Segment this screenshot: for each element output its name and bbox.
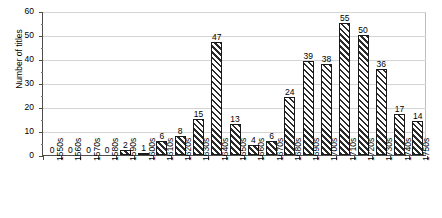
y-tick-minor-25 bbox=[41, 96, 43, 97]
y-tick-10 bbox=[39, 132, 43, 133]
bar-value-label-1640s: 47 bbox=[204, 32, 230, 42]
x-axis-label-1570s: 1570s bbox=[92, 138, 102, 161]
y-tick-minor-15 bbox=[41, 120, 43, 121]
bar-value-label-1710s: 55 bbox=[332, 13, 358, 23]
y-tick-minor-55 bbox=[41, 24, 43, 25]
bar-1710s bbox=[339, 23, 350, 155]
x-tick-1550s bbox=[43, 156, 44, 160]
bar-value-label-1750s: 14 bbox=[405, 111, 431, 121]
y-tick-label-10: 10 bbox=[0, 126, 34, 136]
y-tick-20 bbox=[39, 108, 43, 109]
bar-value-label-1700s: 38 bbox=[313, 54, 339, 64]
y-tick-label-0: 0 bbox=[0, 150, 34, 160]
x-axis-label-1640s: 1640s bbox=[220, 138, 230, 161]
x-axis-label-1650s: 1650s bbox=[238, 138, 248, 161]
y-tick-label-60: 60 bbox=[0, 6, 34, 16]
x-axis-label-1680s: 1680s bbox=[293, 138, 303, 161]
bar-value-label-1730s: 36 bbox=[368, 59, 394, 69]
y-tick-minor-45 bbox=[41, 48, 43, 49]
bar-value-label-1630s: 15 bbox=[185, 109, 211, 119]
y-tick-30 bbox=[39, 84, 43, 85]
x-axis-label-1590s: 1590s bbox=[128, 138, 138, 161]
plot-area: 00002168154713462439385550361714 bbox=[42, 12, 426, 156]
x-axis-label-1690s: 1690s bbox=[311, 138, 321, 161]
bar-chart: Number of titles 0102030405060 000021681… bbox=[0, 0, 442, 218]
y-tick-60 bbox=[39, 12, 43, 13]
x-axis-label-1720s: 1720s bbox=[366, 138, 376, 161]
x-axis-label-1660s: 1660s bbox=[256, 138, 266, 161]
bar-value-label-1620s: 8 bbox=[167, 126, 193, 136]
bar-value-label-1720s: 50 bbox=[350, 25, 376, 35]
x-axis-label-1560s: 1560s bbox=[73, 138, 83, 161]
x-axis-label-1630s: 1630s bbox=[201, 138, 211, 161]
y-tick-label-50: 50 bbox=[0, 30, 34, 40]
y-tick-40 bbox=[39, 60, 43, 61]
x-axis-label-1700s: 1700s bbox=[329, 138, 339, 161]
gridline-60 bbox=[43, 12, 426, 13]
x-axis-label-1670s: 1670s bbox=[275, 138, 285, 161]
gridline-50 bbox=[43, 36, 426, 37]
y-tick-label-20: 20 bbox=[0, 102, 34, 112]
x-axis-label-1610s: 1610s bbox=[165, 138, 175, 161]
y-tick-minor-35 bbox=[41, 72, 43, 73]
y-tick-50 bbox=[39, 36, 43, 37]
x-axis-label-1750s: 1750s bbox=[421, 138, 431, 161]
gridline-30 bbox=[43, 84, 426, 85]
bar-value-label-1650s: 13 bbox=[222, 114, 248, 124]
x-axis-label-1710s: 1710s bbox=[348, 138, 358, 161]
x-axis-label-1600s: 1600s bbox=[147, 138, 157, 161]
x-axis-label-1740s: 1740s bbox=[403, 138, 413, 161]
y-tick-label-40: 40 bbox=[0, 54, 34, 64]
y-tick-label-30: 30 bbox=[0, 78, 34, 88]
x-axis-label-1620s: 1620s bbox=[183, 138, 193, 161]
x-axis-label-1550s: 1550s bbox=[55, 138, 65, 161]
bar-value-label-1680s: 24 bbox=[277, 87, 303, 97]
gridline-20 bbox=[43, 108, 426, 109]
x-axis-label-1580s: 1580s bbox=[110, 138, 120, 161]
x-axis-label-1730s: 1730s bbox=[384, 138, 394, 161]
